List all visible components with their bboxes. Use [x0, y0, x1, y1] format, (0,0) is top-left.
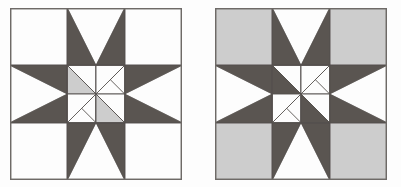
- left-block-corner-square-2: [10, 123, 67, 180]
- right-block-corner-square-3: [330, 123, 387, 180]
- quilt-block-right: [215, 8, 387, 180]
- left-block-corner-square-3: [125, 123, 182, 180]
- left-block-corner-square-1: [125, 8, 182, 65]
- right-block-corner-square-1: [330, 8, 387, 65]
- left-block-corner-square-0: [10, 8, 67, 65]
- quilt-block-left: [10, 8, 182, 180]
- figure-canvas: [0, 0, 401, 187]
- right-block-corner-square-0: [215, 8, 272, 65]
- left-block-svg: [10, 8, 182, 180]
- right-block-corner-square-2: [215, 123, 272, 180]
- right-block-svg: [215, 8, 387, 180]
